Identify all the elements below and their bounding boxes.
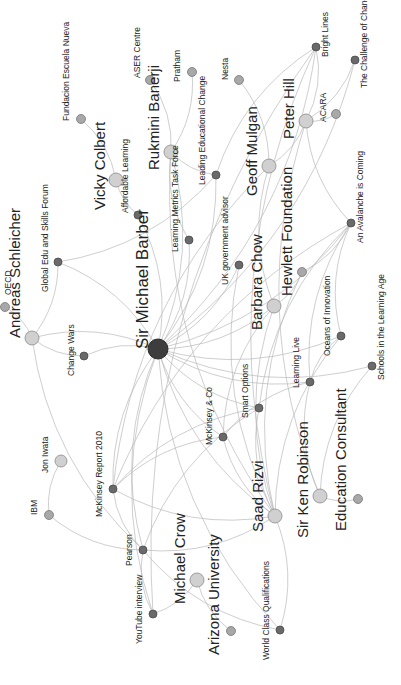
node-label-globaledu: Global Edu and Skills Forum: [40, 184, 50, 292]
node-brightlines[interactable]: [312, 43, 320, 51]
node-michaelcrow[interactable]: [190, 573, 204, 587]
node-label-ukgov: UK government advisor: [220, 196, 230, 285]
node-challenge[interactable]: [351, 56, 359, 64]
edge-smb-mckreport: [113, 349, 158, 489]
node-label-aser: ASER Centre: [132, 27, 142, 78]
node-avalanche[interactable]: [347, 219, 355, 227]
node-worldclass[interactable]: [276, 626, 284, 634]
node-label-peterhill: Peter Hill: [280, 78, 297, 139]
node-label-learninglive: Learning Live: [291, 337, 301, 388]
node-label-oceans: Oceans of Innovation: [322, 275, 332, 356]
edge-smb-lec: [158, 175, 216, 349]
node-arizona[interactable]: [227, 627, 236, 636]
node-schools[interactable]: [368, 362, 376, 370]
node-pearson[interactable]: [139, 546, 147, 554]
node-mckco[interactable]: [219, 433, 227, 441]
node-label-kenrobinson: Sir Ken Robinson: [294, 421, 311, 538]
node-oceans[interactable]: [337, 332, 345, 340]
node-label-pratham: Pratham: [172, 50, 182, 82]
edge-worldclass-saad: [275, 516, 288, 630]
node-smartoptions[interactable]: [255, 404, 263, 412]
node-label-oecd: OECD: [3, 270, 13, 295]
node-label-mckreport: McKinsey Report 2010: [94, 431, 104, 517]
node-label-smb: Sir Michael Barber: [133, 209, 152, 349]
node-geoff[interactable]: [262, 159, 276, 173]
network-diagram: Sir Michael BarberAndreas SchleicherOECD…: [0, 0, 401, 685]
node-ibm[interactable]: [45, 511, 54, 520]
node-label-brightlines: Bright Lines: [320, 12, 330, 57]
node-label-affordable: Affordable Learning: [120, 139, 130, 213]
node-label-schools: Schools in the Learning Age: [376, 274, 386, 380]
node-ukgov[interactable]: [235, 261, 243, 269]
node-globaledu[interactable]: [54, 258, 62, 266]
node-label-arizona: Arizona University: [205, 534, 222, 655]
node-label-worldclass: World Class Qualifications: [261, 561, 271, 660]
node-andreas[interactable]: [25, 331, 39, 345]
node-label-geoff: Geoff Mulgan: [243, 106, 260, 196]
node-youtube[interactable]: [149, 610, 157, 618]
node-label-fundacion: Fundacion Escuela Nueva: [61, 21, 71, 121]
node-changewars[interactable]: [80, 352, 88, 360]
node-layer: [1, 43, 377, 636]
edge-jon-ibm: [48, 461, 61, 515]
node-label-rukmini: Rukmini Banerji: [145, 65, 162, 170]
node-nesta[interactable]: [235, 76, 244, 85]
node-label-ibm: IBM: [29, 500, 39, 515]
edge-andreas-changewars: [32, 338, 84, 356]
node-label-acara: ACARA: [318, 92, 328, 122]
node-hewlett[interactable]: [298, 268, 307, 277]
node-label-nesta: Nesta: [220, 58, 230, 80]
node-lec[interactable]: [212, 171, 220, 179]
node-label-lmtf: Learning Metrics Task Force: [170, 145, 180, 252]
node-acara[interactable]: [332, 110, 341, 119]
node-fundacion[interactable]: [77, 115, 86, 124]
node-label-avalanche: An Avalanche is Coming: [355, 151, 365, 243]
node-label-vicky: Vicky Colbert: [91, 121, 108, 210]
node-educonsultant[interactable]: [354, 495, 363, 504]
edge-layer: [5, 47, 372, 631]
node-label-lec: Leading Educational Change: [197, 76, 207, 185]
node-label-michaelcrow: Michael Crow: [171, 513, 188, 604]
node-label-pearson: Pearson: [124, 534, 134, 566]
node-saad[interactable]: [268, 509, 282, 523]
node-lmtf[interactable]: [185, 236, 193, 244]
node-label-changewars: Change Wars: [66, 324, 76, 376]
node-barbara[interactable]: [267, 299, 281, 313]
node-label-educonsultant: Education Consultant: [332, 388, 349, 531]
node-mckreport[interactable]: [109, 485, 117, 493]
node-jon[interactable]: [55, 455, 67, 467]
node-label-barbara: Barbara Chow: [248, 234, 265, 330]
node-label-jon: Jon Iwata: [40, 436, 50, 473]
node-label-saad: Saad Rizvi: [249, 460, 266, 532]
edge-brightlines-lec: [216, 47, 316, 175]
node-label-mckco: McKinsey & Co: [204, 387, 214, 445]
label-layer: Sir Michael BarberAndreas SchleicherOECD…: [3, 0, 386, 660]
node-learninglive[interactable]: [306, 378, 314, 386]
node-kenrobinson[interactable]: [313, 489, 327, 503]
edge-rukmini-pratham: [171, 72, 193, 152]
node-peterhill[interactable]: [299, 114, 313, 128]
node-pratham[interactable]: [188, 68, 197, 77]
edge-smartoptions-mckreport: [113, 408, 259, 489]
node-label-challenge: The Challenge of Change: [359, 0, 369, 88]
node-label-youtube: YouTube interview: [134, 574, 144, 644]
edge-peterhill-challenge: [306, 60, 355, 121]
edge-smb-youtube: [132, 349, 158, 614]
node-label-smartoptions: Smart Options: [240, 364, 250, 418]
node-label-hewlett: Hewlett Foundation: [278, 167, 295, 296]
